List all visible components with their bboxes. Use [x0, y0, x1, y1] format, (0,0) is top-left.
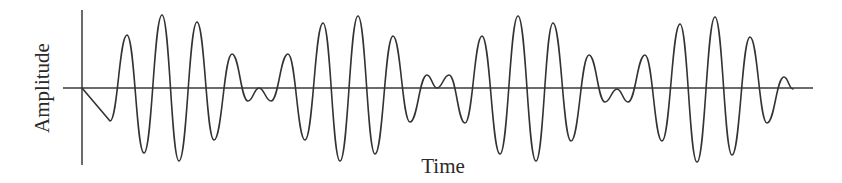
x-axis-label: Time — [421, 154, 465, 178]
waveform-chart: Amplitude Time — [0, 0, 842, 183]
y-axis-label: Amplitude — [30, 43, 54, 133]
